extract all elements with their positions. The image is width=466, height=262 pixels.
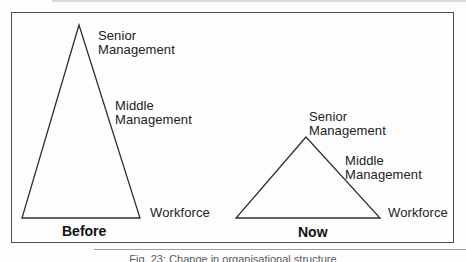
- figure-page: Senior Management Middle Management Work…: [0, 0, 466, 262]
- before-senior-management-label: Senior Management: [98, 29, 186, 57]
- figure-caption: Fig. 23: Change in organisational struct…: [0, 253, 466, 262]
- now-title: Now: [298, 224, 328, 240]
- before-middle-management-label: Middle Management: [115, 99, 203, 127]
- before-workforce-label: Workforce: [150, 206, 210, 220]
- now-senior-management-label: Senior Management: [309, 110, 397, 138]
- now-middle-management-label: Middle Management: [345, 154, 433, 182]
- now-workforce-label: Workforce: [388, 206, 448, 220]
- before-title: Before: [62, 223, 106, 239]
- page-rule-line: [94, 249, 466, 250]
